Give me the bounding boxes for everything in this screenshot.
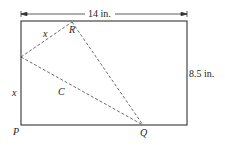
point-R-label: R xyxy=(69,25,75,35)
point-Q-label: Q xyxy=(140,128,147,138)
segment-x-left-label: x xyxy=(12,88,16,98)
segment-crease-C xyxy=(21,57,143,125)
crease-C-label: C xyxy=(58,87,65,97)
fold-lines xyxy=(21,22,143,125)
segment-RQ xyxy=(72,22,143,125)
height-label: 8.5 in. xyxy=(189,69,214,79)
width-label: 14 in. xyxy=(88,9,111,19)
segment-x-top-label: x xyxy=(43,29,47,39)
diagram-canvas: 14 in. 8.5 in. R x x C P Q xyxy=(0,0,225,153)
point-P-label: P xyxy=(13,127,19,137)
